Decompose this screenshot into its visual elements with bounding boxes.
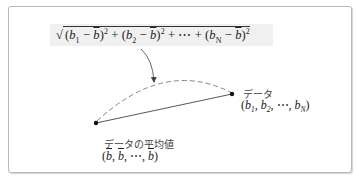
separator: , ⋯,	[124, 149, 148, 163]
mean-point-dot	[94, 121, 98, 125]
data-point-coords: (b1, b2, ⋯, bN)	[241, 98, 310, 114]
data-point-dot	[230, 92, 234, 96]
paren: )	[154, 149, 158, 163]
separator: , ⋯,	[271, 98, 295, 112]
mean-point-coords: (b, b, ⋯, b)	[102, 149, 158, 164]
diagram-graphics	[0, 0, 358, 185]
dashed-distance-arc	[97, 81, 232, 122]
paren: )	[306, 98, 310, 112]
distance-line	[96, 94, 232, 123]
pointer-arrow	[141, 49, 154, 82]
